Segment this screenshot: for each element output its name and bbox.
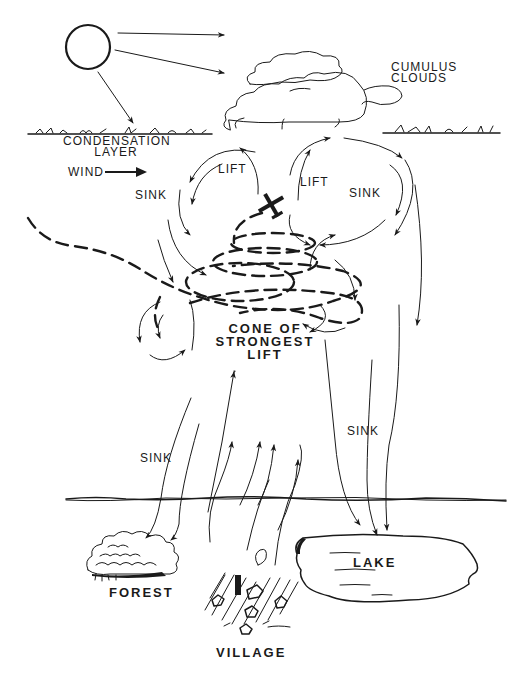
- thermal-loop-small-left: [139, 300, 194, 360]
- condensation-layer-line-left: [28, 127, 212, 134]
- label-cone-of-strongest-lift: CONE OF STRONGEST LIFT: [200, 322, 330, 361]
- label-sink-lower-right: SINK: [347, 425, 379, 437]
- label-sink-lower-left: SINK: [140, 452, 172, 464]
- label-forest: FOREST: [109, 586, 174, 599]
- label-layer: LAYER: [63, 147, 169, 158]
- wind-arrow-icon: [104, 166, 148, 178]
- sun-rays: [98, 33, 224, 123]
- label-lift: LIFT: [200, 348, 330, 361]
- label-wind: WIND: [68, 166, 104, 178]
- label-wind-text: WIND: [68, 165, 104, 179]
- village-icon: [205, 549, 298, 634]
- label-sink-upper-right: SINK: [349, 187, 381, 199]
- forest-icon: [87, 531, 179, 581]
- label-cumulus-clouds: CUMULUS CLOUDS: [391, 62, 457, 84]
- label-village: VILLAGE: [216, 646, 286, 659]
- ground-horizon-line: [66, 497, 506, 501]
- condensation-layer-line-right: [383, 125, 500, 133]
- label-clouds: CLOUDS: [391, 73, 457, 84]
- label-lake: LAKE: [353, 556, 396, 569]
- sun-icon: [66, 25, 110, 69]
- cumulus-clouds-icon: [224, 51, 402, 130]
- label-lift-left: LIFT: [218, 163, 247, 175]
- label-condensation-layer: CONDENSATION LAYER: [63, 136, 169, 158]
- label-lift-right: LIFT: [300, 176, 329, 188]
- thermal-lift-diagram: CUMULUS CLOUDS CONDENSATION LAYER WIND L…: [0, 0, 520, 681]
- dashed-flight-path: [28, 213, 362, 332]
- thermal-loop-small-right: [303, 235, 355, 332]
- label-sink-upper-left: SINK: [135, 189, 167, 201]
